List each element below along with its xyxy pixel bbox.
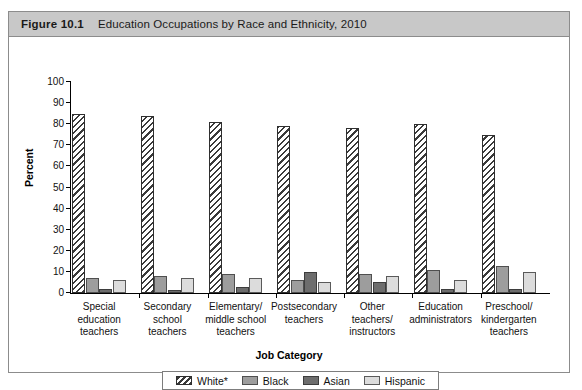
x-axis-tick-mark <box>344 293 345 298</box>
bar-black-1 <box>154 276 167 293</box>
y-axis-tick-mark <box>66 271 70 272</box>
legend-label: White* <box>197 375 228 387</box>
legend-swatch-icon <box>364 376 380 385</box>
figure-container: Figure 10.1 Education Occupations by Rac… <box>8 11 570 373</box>
x-axis-category-label: Special education teachers <box>65 301 133 339</box>
x-axis-category-label: Elementary/ middle school teachers <box>202 301 270 339</box>
y-axis-tick-mark <box>66 229 70 230</box>
y-axis-tick: 70 <box>70 144 71 145</box>
bar-white-3 <box>277 126 290 293</box>
x-axis-tick-mark <box>139 293 140 298</box>
legend-swatch-icon <box>303 376 319 385</box>
legend-item-black: Black <box>242 375 289 387</box>
plot-area: 0102030405060708090100 <box>71 82 549 293</box>
bar-black-6 <box>496 266 509 293</box>
bar-black-5 <box>427 270 440 293</box>
y-axis-tick-mark <box>66 292 70 293</box>
x-axis-tick-mark <box>276 293 277 298</box>
chart-legend: White*BlackAsianHispanic <box>162 371 439 390</box>
y-axis-tick-label: 20 <box>53 244 64 255</box>
bar-asian-5 <box>441 289 454 293</box>
legend-swatch-icon <box>176 376 192 385</box>
bar-hispanic-3 <box>318 282 331 293</box>
y-axis-tick-label: 100 <box>47 76 64 87</box>
figure-body: Percent 0102030405060708090100 Special e… <box>9 37 569 372</box>
x-axis-label: Job Category <box>9 349 569 361</box>
y-axis-tick-mark <box>66 144 70 145</box>
y-axis-tick: 0 <box>70 292 71 293</box>
legend-item-asian: Asian <box>303 375 350 387</box>
y-axis-tick: 40 <box>70 208 71 209</box>
bar-asian-3 <box>304 272 317 293</box>
y-axis-tick: 30 <box>70 229 71 230</box>
bar-white-6 <box>482 135 495 293</box>
legend-label: Asian <box>324 375 350 387</box>
y-axis-label: Percent <box>23 148 35 187</box>
y-axis-tick-mark <box>66 81 70 82</box>
y-axis-tick-label: 60 <box>53 160 64 171</box>
figure-caption: Education Occupations by Race and Ethnic… <box>98 18 367 30</box>
y-axis-tick: 10 <box>70 271 71 272</box>
y-axis-tick: 100 <box>70 81 71 82</box>
bar-hispanic-4 <box>386 276 399 293</box>
y-axis-tick-label: 40 <box>53 202 64 213</box>
y-axis-tick-mark <box>66 208 70 209</box>
x-axis-tick-mark <box>481 293 482 298</box>
y-axis-tick: 90 <box>70 102 71 103</box>
figure-header: Figure 10.1 Education Occupations by Rac… <box>9 12 569 37</box>
figure-number: Figure 10.1 <box>21 18 84 30</box>
y-axis-tick-mark <box>66 123 70 124</box>
bar-black-3 <box>291 280 304 293</box>
bar-white-2 <box>209 122 222 293</box>
y-axis-tick-mark <box>66 187 70 188</box>
y-axis-tick-mark <box>66 165 70 166</box>
bar-asian-0 <box>99 289 112 293</box>
x-axis-tick-mark <box>412 293 413 298</box>
bar-asian-6 <box>509 289 522 293</box>
y-axis-tick-label: 90 <box>53 97 64 108</box>
bar-asian-2 <box>236 287 249 293</box>
bar-white-4 <box>346 128 359 293</box>
legend-swatch-icon <box>242 376 258 385</box>
y-axis-tick-mark <box>66 102 70 103</box>
y-axis-tick-label: 50 <box>53 181 64 192</box>
y-axis-tick-label: 0 <box>58 287 64 298</box>
bar-hispanic-6 <box>523 272 536 293</box>
bar-asian-1 <box>168 290 181 293</box>
x-axis-category-label: Postsecondary teachers <box>270 301 338 326</box>
x-axis-line <box>70 293 550 294</box>
legend-item-hispanic: Hispanic <box>364 375 425 387</box>
x-axis-category-label: Preschool/ kindergarten teachers <box>475 301 543 339</box>
bar-black-4 <box>359 274 372 293</box>
bar-hispanic-1 <box>181 278 194 293</box>
bar-white-5 <box>414 124 427 293</box>
y-axis-tick-label: 80 <box>53 118 64 129</box>
bar-black-2 <box>222 274 235 293</box>
x-axis-tick-mark <box>208 293 209 298</box>
y-axis-tick: 50 <box>70 187 71 188</box>
x-axis-category-label: Secondary school teachers <box>133 301 201 339</box>
bar-white-1 <box>141 116 154 293</box>
y-axis-tick-mark <box>66 250 70 251</box>
bar-asian-4 <box>373 282 386 293</box>
bar-black-0 <box>86 278 99 293</box>
y-axis-tick-label: 10 <box>53 265 64 276</box>
y-axis-tick: 80 <box>70 123 71 124</box>
legend-label: Hispanic <box>385 375 425 387</box>
x-axis-category-label: Education administrators <box>406 301 474 326</box>
y-axis-tick-label: 70 <box>53 139 64 150</box>
bar-white-0 <box>72 114 85 293</box>
bar-hispanic-5 <box>454 280 467 293</box>
y-axis-tick: 60 <box>70 165 71 166</box>
legend-label: Black <box>263 375 289 387</box>
legend-item-white: White* <box>176 375 228 387</box>
y-axis-tick: 20 <box>70 250 71 251</box>
bar-hispanic-2 <box>249 278 262 293</box>
bar-hispanic-0 <box>113 280 126 293</box>
y-axis-tick-label: 30 <box>53 223 64 234</box>
x-axis-category-label: Other teachers/ instructors <box>338 301 406 339</box>
